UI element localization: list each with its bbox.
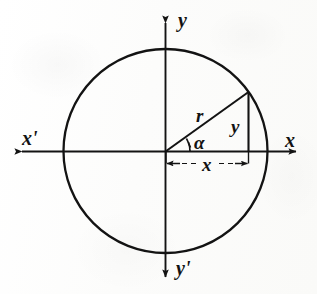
x-axis-positive-label: x: [285, 130, 295, 150]
radius-label: r: [196, 106, 203, 125]
abscissa-label: x: [202, 155, 212, 174]
angle-label: α: [194, 133, 205, 152]
ordinate-label: y: [231, 117, 239, 136]
y-axis-positive-label: y: [178, 10, 187, 30]
angle-tick: [187, 139, 191, 148]
diagram-canvas: [0, 0, 317, 294]
x-axis-negative-label: x': [22, 128, 38, 148]
y-axis-negative-label: y': [176, 258, 190, 278]
trigonometry-circle-figure: y y' x x' r α y x: [0, 0, 317, 294]
